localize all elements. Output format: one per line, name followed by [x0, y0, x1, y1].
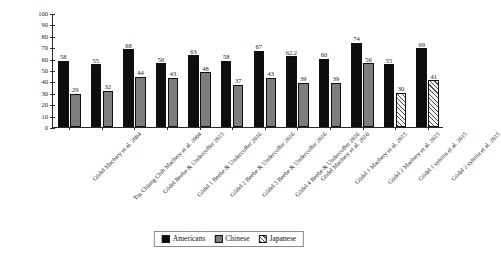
- bar-chinese: 48: [200, 72, 211, 127]
- bar-group: 7456: [346, 14, 379, 127]
- legend-swatch-americans: [162, 235, 170, 243]
- y-axis-tick-label: 100: [38, 11, 48, 18]
- bar-value-label: 55: [386, 58, 393, 65]
- bar-americans: 56: [156, 63, 167, 127]
- bar-group: 5829: [53, 14, 86, 127]
- bar-group: 62.239: [281, 14, 314, 127]
- bar-americans: 55: [91, 64, 102, 127]
- bar-value-label: 32: [105, 84, 112, 91]
- x-axis-tick-label: Gödel 4 Beebe & Undercoffer 2016: [294, 131, 361, 198]
- x-axis-line: [52, 127, 443, 128]
- bar-americans: 69: [416, 48, 427, 127]
- bar-value-label: 55: [93, 58, 100, 65]
- bar-chinese: 43: [266, 78, 277, 127]
- bar-group: 5532: [86, 14, 119, 127]
- bar-japanese: 41: [428, 80, 439, 127]
- bar-value-label: 67: [256, 44, 263, 51]
- bar-value-label: 48: [202, 66, 209, 73]
- bar-value-label: 39: [333, 76, 340, 83]
- x-axis-labels: Gödel Machery et al. 2004Tsu Chiung Chih…: [52, 129, 443, 219]
- bar-value-label: 37: [235, 78, 242, 85]
- bar-americans: 60: [319, 59, 330, 127]
- legend-swatch-japanese: [259, 235, 267, 243]
- bar-americans: 68: [123, 49, 134, 127]
- bar-value-label: 58: [223, 54, 230, 61]
- legend-item: Japanese: [259, 235, 297, 243]
- bar-value-label: 41: [430, 74, 437, 81]
- legend-swatch-chinese: [214, 235, 222, 243]
- bar-chinese: 44: [135, 77, 146, 127]
- bar-value-label: 56: [365, 57, 372, 64]
- x-axis-tick-label: Gödel 3 Beebe & Undercoffer 2016: [261, 131, 328, 198]
- bar-americans: 63: [188, 55, 199, 127]
- bar-americans: 58: [221, 61, 232, 127]
- bar-group: 6743: [249, 14, 282, 127]
- legend-item: Chinese: [214, 235, 249, 243]
- y-axis-tick-label: 40: [42, 79, 49, 86]
- legend-label: Chinese: [225, 235, 249, 243]
- bar-americans: 67: [254, 51, 265, 127]
- bar-value-label: 43: [170, 71, 177, 78]
- bar-group: 6941: [411, 14, 444, 127]
- bar-group: 6844: [118, 14, 151, 127]
- legend-label: Japanese: [270, 235, 297, 243]
- bar-chinese: 29: [70, 94, 81, 127]
- bar-chinese: 43: [168, 78, 179, 127]
- y-axis-tick-label: 70: [42, 45, 49, 52]
- legend-item: Americans: [162, 235, 206, 243]
- bar-value-label: 44: [137, 70, 144, 77]
- y-axis-tick-label: 20: [42, 102, 49, 109]
- bar-value-label: 74: [353, 36, 360, 43]
- bar-chinese: 32: [103, 91, 114, 127]
- bar-group: 6348: [183, 14, 216, 127]
- bar-value-label: 30: [398, 86, 405, 93]
- bar-americans: 74: [351, 43, 362, 127]
- bar-value-label: 63: [190, 49, 197, 56]
- bar-value-label: 39: [300, 76, 307, 83]
- bar-japanese: 30: [396, 93, 407, 127]
- bar-value-label: 58: [60, 54, 67, 61]
- bar-value-label: 69: [418, 42, 425, 49]
- bar-group: 5643: [151, 14, 184, 127]
- chart-legend: AmericansChineseJapanese: [154, 231, 304, 247]
- x-axis-tick-label: Gödel 2 Beebe & Undercoffer 2016: [229, 131, 296, 198]
- y-axis-tick-label: 30: [42, 91, 49, 98]
- bar-group: 5837: [216, 14, 249, 127]
- bar-chinese: 37: [233, 85, 244, 127]
- bar-value-label: 62.2: [286, 50, 297, 57]
- bar-group: 6039: [314, 14, 347, 127]
- bar-group: 5530: [379, 14, 412, 127]
- bar-americans: 55: [384, 64, 395, 127]
- bar-value-label: 68: [125, 43, 132, 50]
- bar-americans: 58: [58, 61, 69, 127]
- bar-chinese: 39: [298, 83, 309, 127]
- y-axis-tick-label: 0: [45, 125, 48, 132]
- bar-chinese: 39: [331, 83, 342, 127]
- y-axis-tick-label: 50: [42, 68, 49, 75]
- y-axis-tick-label: 80: [42, 34, 49, 41]
- bars-layer: 582955326844564363485837674362.239603974…: [53, 14, 443, 127]
- y-axis-tick-label: 10: [42, 113, 49, 120]
- bar-value-label: 60: [321, 52, 328, 59]
- y-axis-tick-label: 90: [42, 22, 49, 29]
- bar-value-label: 43: [268, 71, 275, 78]
- x-axis-tick-label: Gödel Machery et al. 2004: [92, 131, 143, 182]
- bar-chinese: 56: [363, 63, 374, 127]
- y-axis-tick-label: 60: [42, 56, 49, 63]
- bar-value-label: 29: [72, 87, 79, 94]
- plot-area: 0102030405060708090100 58295532684456436…: [52, 14, 443, 128]
- x-axis-tick-label: Gödel 1 Beebe & Undercoffer 2016: [196, 131, 263, 198]
- legend-label: Americans: [173, 235, 206, 243]
- bar-americans: 62.2: [286, 56, 297, 127]
- bar-value-label: 56: [158, 57, 165, 64]
